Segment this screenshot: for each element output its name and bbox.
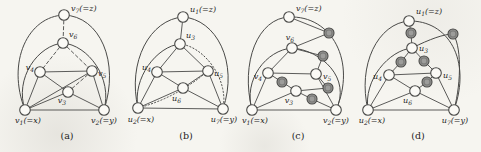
node-v6: [58, 38, 69, 49]
node-label-v7: v7(=z): [71, 4, 97, 14]
node-v5: [311, 69, 322, 80]
node-label-u5: u5: [443, 71, 452, 81]
node-u2: [133, 103, 144, 114]
node-label-u1: u1(=z): [190, 5, 216, 15]
edge-u2-u7: [138, 108, 223, 109]
node-label-u4: u4: [373, 72, 382, 82]
node-v3: [63, 87, 74, 98]
node-label-u6: u6: [403, 96, 412, 106]
node-label-u2: u2(=x): [128, 115, 154, 125]
figure-canvas: v1(=x)v2(=y)v3v4v5v6v7(=z)(a)u2(=x)u7(=y…: [0, 0, 481, 152]
edge-u4-u5: [157, 71, 208, 72]
edge-v4-v5: [40, 71, 92, 72]
node-label-v7: v7(=z): [296, 4, 322, 14]
subfigure-b: u2(=x)u7(=y)u6u4u5u3u1(=z)(b): [128, 5, 237, 141]
node-v2: [331, 105, 342, 116]
node-label-u5: u5: [214, 69, 223, 79]
node-u4: [152, 67, 163, 78]
node-u3: [175, 39, 186, 50]
node-label-v5: v5: [98, 69, 107, 79]
node-u5: [203, 66, 214, 77]
node-label-u7: u7(=y): [211, 115, 237, 125]
edge-v2-v3: [68, 92, 104, 110]
subfigure-c: v1(=x)v2(=y)v3v4v5v6v7(=z)(c): [242, 4, 349, 141]
node-v7: [284, 12, 295, 23]
node-u1: [178, 12, 189, 23]
node-label-u3: u3: [186, 31, 195, 41]
node-v5: [87, 66, 98, 77]
node-v2: [99, 105, 110, 116]
node-label-v6: v6: [286, 33, 295, 43]
node-u6: [410, 86, 421, 97]
node-label-u2: u2(=x): [359, 116, 385, 126]
subfigure-caption: (b): [179, 130, 193, 141]
node-label-u3: u3: [419, 44, 428, 54]
node-u2: [363, 105, 374, 116]
node-label-u1: u1(=z): [416, 7, 442, 17]
node-label-v5: v5: [323, 72, 332, 82]
node-u1: [404, 16, 415, 27]
node-label-v1: v1(=x): [15, 116, 41, 126]
subfigure-a: v1(=x)v2(=y)v3v4v5v6v7(=z)(a): [15, 4, 117, 141]
node-v1: [247, 105, 258, 116]
node-label-v2: v2(=y): [323, 116, 349, 126]
node-label-v4: v4: [254, 72, 263, 82]
node-v4: [263, 68, 274, 79]
node-label-v2: v2(=y): [91, 116, 117, 126]
node-label-u4: u4: [142, 63, 151, 73]
subfigure-d: u2(=x)u7(=y)u6u4u5u3u1(=z)(d): [359, 7, 468, 141]
node-v1: [20, 105, 31, 116]
node-label-v3: v3: [58, 96, 67, 106]
subfigure-caption: (a): [60, 130, 73, 141]
edge-s2-u7: [453, 34, 460, 110]
figure-page: v1(=x)v2(=y)v3v4v5v6v7(=z)(a)u2(=x)u7(=y…: [0, 0, 481, 152]
node-u7: [449, 105, 460, 116]
node-label-v6: v6: [69, 30, 78, 40]
node-label-v1: v1(=x): [242, 116, 268, 126]
node-label-v3: v3: [285, 96, 294, 106]
edge-s1-v6: [292, 33, 329, 48]
node-v4: [35, 67, 46, 78]
node-v3: [291, 86, 302, 97]
node-u3: [407, 43, 418, 54]
edge-v4-v5: [268, 73, 316, 74]
node-v6: [287, 43, 298, 54]
node-label-v4: v4: [26, 63, 35, 73]
node-label-u7: u7(=y): [442, 116, 468, 126]
node-u4: [384, 70, 395, 81]
node-u7: [218, 104, 229, 115]
node-v7: [59, 10, 70, 21]
edge-u4-u5: [389, 73, 436, 75]
node-u5: [431, 68, 442, 79]
edge-u6-u7: [415, 91, 454, 110]
edge-v7-v1: [248, 17, 289, 110]
node-label-u6: u6: [172, 94, 181, 104]
edge-u6-u7: [183, 88, 223, 109]
node-u6: [178, 83, 189, 94]
subfigure-caption: (c): [292, 130, 305, 141]
subfigure-caption: (d): [411, 130, 425, 141]
